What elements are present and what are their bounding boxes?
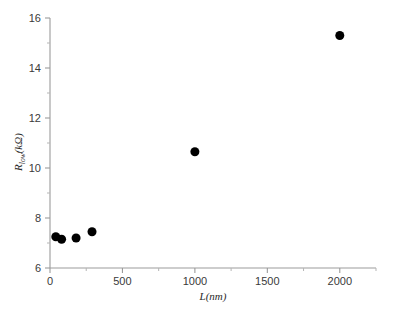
data-point-group (51, 31, 344, 244)
scatter-plot: 6810121416 0500100015002000 Rlow(kΩ) L(n… (0, 0, 396, 314)
x-axis-ticks (50, 268, 376, 273)
data-point (72, 234, 81, 243)
x-tick-label: 2000 (328, 275, 352, 287)
data-point (57, 235, 66, 244)
y-tick-label: 12 (29, 112, 41, 124)
y-tick-label: 6 (35, 262, 41, 274)
x-tick-label: 500 (113, 275, 131, 287)
y-tick-label: 16 (29, 12, 41, 24)
y-axis-title: Rlow(kΩ) (12, 133, 27, 172)
data-point (335, 31, 344, 40)
y-tick-label: 8 (35, 212, 41, 224)
data-point (190, 147, 199, 156)
x-axis-tick-labels: 0500100015002000 (47, 275, 352, 287)
y-axis-tick-labels: 6810121416 (29, 12, 41, 274)
data-point (88, 227, 97, 236)
x-axis-title: L(nm) (199, 290, 227, 303)
x-tick-label: 1000 (183, 275, 207, 287)
y-axis-ticks (45, 18, 50, 268)
x-tick-label: 0 (47, 275, 53, 287)
y-tick-label: 10 (29, 162, 41, 174)
y-tick-label: 14 (29, 62, 41, 74)
x-tick-label: 1500 (255, 275, 279, 287)
figure-panel: 6810121416 0500100015002000 Rlow(kΩ) L(n… (0, 0, 396, 314)
